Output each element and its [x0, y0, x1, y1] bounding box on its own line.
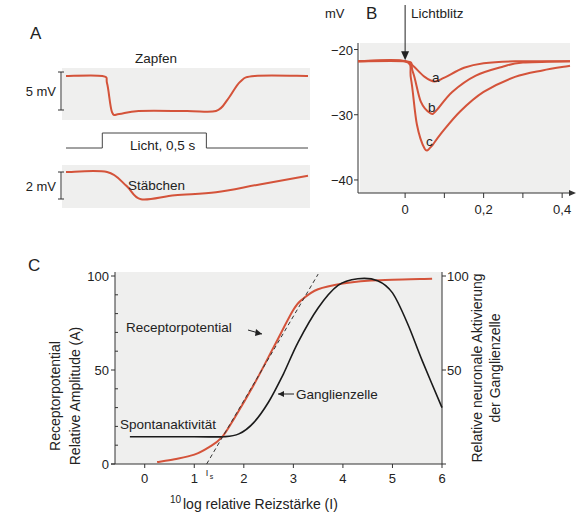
panel-b-ytick-label: −40 [331, 173, 353, 188]
panel-b-xtick-label: 0,4 [553, 202, 571, 217]
panel-b-ylabel: mV [325, 6, 345, 21]
panel-b-label: B [366, 4, 377, 23]
stimulus-label: Licht, 0,5 s [130, 138, 196, 153]
figure: A 5 mV 2 mV Zapfen Stäbchen Licht, 0,5 s… [0, 0, 580, 530]
panel-c-ytick-label: 100 [87, 269, 109, 284]
panel-c-ylabel-line1: Receptorpotential [47, 341, 63, 451]
panel-c-xtick-label: 6 [438, 471, 445, 486]
panel-b-xtick-label: 0,2 [475, 202, 493, 217]
cone-label: Zapfen [135, 51, 177, 66]
panel-c-xlabel-superscript: 10 [170, 494, 182, 505]
panel-c-label: C [28, 256, 40, 275]
rod-label: Stäbchen [128, 178, 185, 193]
panel-c-right-ytick-label: 50 [447, 363, 461, 378]
panel-c-plot-area [115, 272, 442, 464]
panel-b: B mV Lichtblitz −20−30−4000,20,4 a b c [325, 4, 576, 217]
flash-annotation: Lichtblitz [411, 6, 464, 21]
panel-b-xtick-label: 0 [401, 202, 408, 217]
panel-c-xtick-label: 3 [290, 471, 297, 486]
threshold-label: I [206, 468, 209, 478]
panel-a: A 5 mV 2 mV Zapfen Stäbchen Licht, 0,5 s [26, 24, 310, 208]
panel-c-xtick-label: 1 [191, 471, 198, 486]
panel-c-ylabel-line2: Relative Amplitude (A) [67, 327, 83, 466]
threshold-subscript: s [210, 473, 214, 480]
panel-c-xtick-label: 4 [339, 471, 346, 486]
flash-arrow-icon [401, 5, 409, 60]
panel-c-right-ytick-label: 100 [447, 269, 469, 284]
panel-c-ytick-label: 50 [95, 363, 109, 378]
panel-c-xlabel: log relative Reizstärke (I) [183, 496, 338, 512]
curve-label-c: c [426, 134, 433, 149]
panel-c-ytick-label: 0 [102, 457, 109, 472]
panel-c-xtick-label: 5 [389, 471, 396, 486]
panel-b-plot-area [360, 43, 570, 193]
panel-c-xtick-label: 2 [240, 471, 247, 486]
curve-label-a: a [432, 70, 440, 85]
spontaneous-annotation: Spontanaktivität [120, 417, 216, 432]
panel-c-ylabel-right-line2: der Ganglienzelle [487, 313, 503, 422]
cone-scale-label: 5 mV [26, 84, 57, 99]
ganglion-annotation: Ganglienzelle [296, 387, 378, 402]
panel-c-ylabel-right-line1: Relative neuronale Aktivierung [469, 273, 485, 462]
curve-label-b: b [428, 100, 436, 115]
panel-b-ytick-label: −20 [331, 43, 353, 58]
panel-a-label: A [30, 24, 42, 43]
panel-b-ytick-label: −30 [331, 108, 353, 123]
panel-c: C 050100501000123456Is Receptorpotential… [28, 256, 503, 512]
receptor-annotation: Receptorpotential [126, 320, 232, 335]
panel-b-x-axis-arrow-icon [569, 190, 576, 196]
rod-scale-label: 2 mV [26, 179, 57, 194]
panel-c-xtick-label: 0 [141, 471, 148, 486]
